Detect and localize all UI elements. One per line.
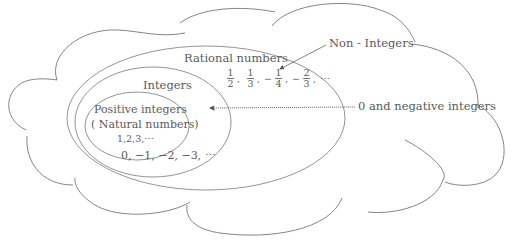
diagram-canvas	[0, 0, 514, 243]
fraction-sign: −	[264, 73, 272, 84]
numerator: 1	[227, 68, 233, 78]
natural-numbers-examples: 1,2,3,⋯	[117, 134, 154, 144]
denominator: 3	[248, 79, 254, 89]
fraction-sign: −	[292, 73, 300, 84]
separator: ,	[237, 73, 240, 84]
positive-integers-label: Positive integers	[94, 104, 187, 115]
non-integers-annotation: Non - Integers	[329, 38, 414, 50]
separator: ,	[257, 73, 260, 84]
numerator: 1	[248, 68, 254, 78]
fraction: 2 3	[303, 68, 310, 89]
cloud-outline	[9, 3, 504, 235]
denominator: 3	[304, 79, 310, 89]
denominator: 4	[276, 79, 282, 89]
numerator: 2	[304, 68, 310, 78]
denominator: 2	[227, 79, 233, 89]
integers-examples: 0, −1, −2, −3, ⋯	[121, 150, 216, 161]
numerator: 1	[276, 68, 282, 78]
fraction: 1 4	[275, 68, 282, 89]
fraction: 1 3	[247, 68, 254, 89]
integers-label: Integers	[143, 80, 192, 92]
separator: ,	[285, 73, 288, 84]
rational-examples: 1 2 , 1 3 , − 1 4 , − 2 3 , ⋯	[222, 68, 332, 89]
zero-negative-arrow	[210, 107, 355, 108]
fraction: 1 2	[227, 68, 234, 89]
separator: ,	[313, 73, 316, 84]
ellipsis: ⋯	[320, 73, 330, 84]
zero-negative-annotation: 0 and negative integers	[358, 101, 496, 113]
natural-numbers-label: ( Natural numbers)	[91, 119, 199, 130]
rational-numbers-label: Rational numbers	[184, 53, 288, 65]
